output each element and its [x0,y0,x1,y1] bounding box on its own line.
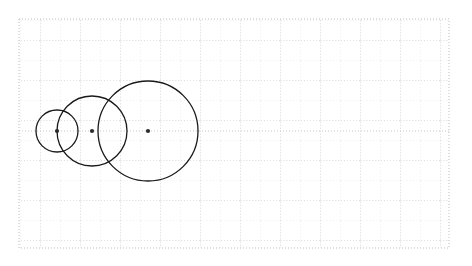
figure-canvas: Three mutually tangent circles on a dott… [0,0,472,266]
grid-group [19,19,449,248]
small-circle-center [55,129,59,133]
medium-circle-center [90,129,94,133]
large-circle-center [146,129,150,133]
circles-diagram-svg: Three mutually tangent circles on a dott… [0,0,472,266]
grid-area [19,19,449,248]
